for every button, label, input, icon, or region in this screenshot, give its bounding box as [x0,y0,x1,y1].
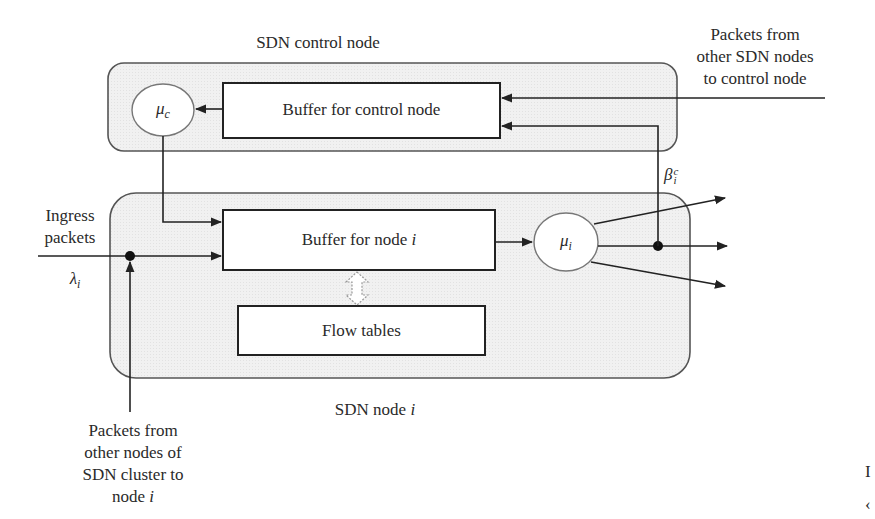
control-server-label: μc [143,98,183,125]
node-server-label: μi [546,230,586,257]
external-control-line3: to control node [680,68,830,90]
control-buffer-label: Buffer for control node [223,99,500,121]
control-node-title: SDN control node [248,32,388,54]
cluster-line3: SDN cluster to [63,464,203,486]
ingress-line2: packets [30,227,110,249]
lambda-label: λi [60,268,90,295]
ingress-junction-dot [125,251,135,261]
cutoff-char-2: ‹ [865,494,875,516]
external-control-line1: Packets from [680,24,830,46]
ingress-label: Ingress packets [30,205,110,249]
sdn-node-title: SDN node i [315,399,435,421]
cluster-line2: other nodes of [63,442,203,464]
external-control-label: Packets from other SDN nodes to control … [680,24,830,90]
node-buffer-label: Buffer for node i [223,229,495,251]
ingress-line1: Ingress [30,205,110,227]
cluster-input-label: Packets from other nodes of SDN cluster … [63,420,203,508]
cutoff-char-1: I [865,461,875,483]
cluster-line4: node i [63,486,203,508]
cluster-line1: Packets from [63,420,203,442]
beta-label: βci [664,164,694,186]
external-control-line2: other SDN nodes [680,46,830,68]
flow-tables-label: Flow tables [238,320,485,342]
